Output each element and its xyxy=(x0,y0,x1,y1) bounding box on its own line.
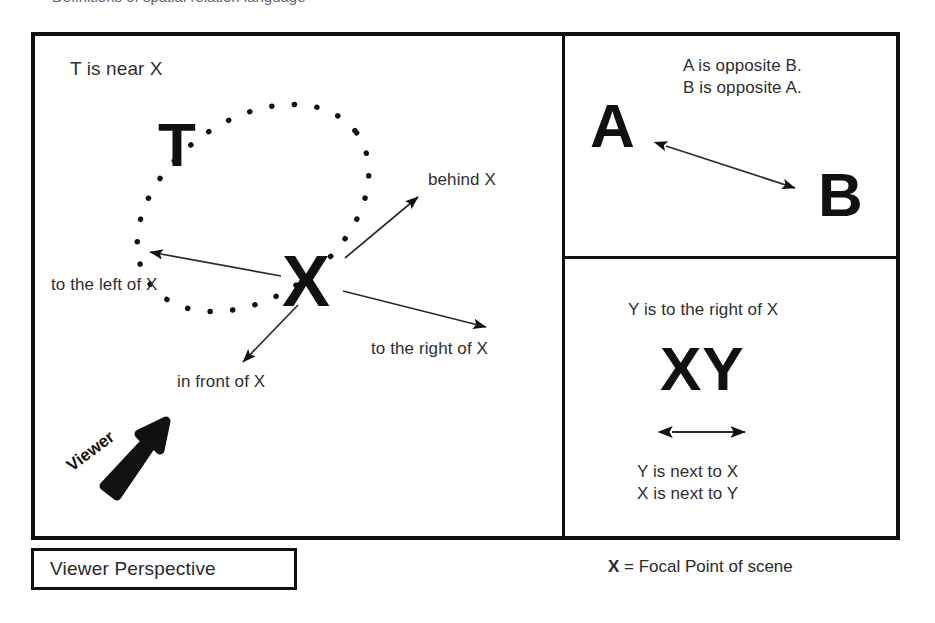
diagram-outer-frame xyxy=(31,32,900,540)
panel-divider-vertical xyxy=(562,32,565,540)
label-behind-x: behind X xyxy=(428,170,496,190)
label-in-front-of-x: in front of X xyxy=(177,372,265,392)
label-b-opposite-a-line2: B is opposite A. xyxy=(683,77,802,99)
label-y-next-to-x: Y is next to X xyxy=(637,462,738,482)
glyph-letter-x-focal: X xyxy=(282,245,330,317)
label-y-right-of-x: Y is to the right of X xyxy=(628,300,778,320)
label-x-next-to-y: X is next to Y xyxy=(637,484,738,504)
legend-symbol: X xyxy=(608,557,619,576)
cut-off-title-text: Definitions of spatial relation language xyxy=(52,0,306,5)
label-to-the-left-of-x: to the left of X xyxy=(51,275,158,295)
legend-definition: Focal Point of scene xyxy=(639,557,793,576)
glyph-letter-a: A xyxy=(590,95,635,157)
diagram-canvas: Definitions of spatial relation language xyxy=(0,0,935,623)
glyph-letter-t: T xyxy=(158,114,196,176)
label-t-is-near-x: T is near X xyxy=(70,58,163,80)
glyph-letters-xy: XY xyxy=(660,338,745,400)
label-to-the-right-of-x: to the right of X xyxy=(371,339,488,359)
viewer-perspective-caption-text: Viewer Perspective xyxy=(50,558,216,580)
legend-focal-point: X = Focal Point of scene xyxy=(608,557,793,577)
panel-divider-horizontal xyxy=(562,256,900,259)
legend-equals: = xyxy=(619,557,638,576)
glyph-letter-b: B xyxy=(818,164,863,226)
label-a-opposite-b-line1: A is opposite B. xyxy=(683,55,802,77)
viewer-perspective-caption-box: Viewer Perspective xyxy=(31,548,297,590)
